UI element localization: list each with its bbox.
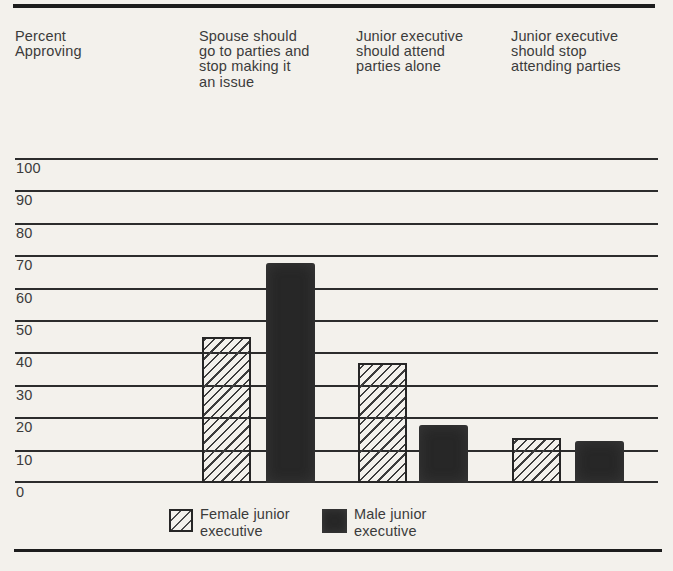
figure-page: Percent Approving Spouse should go to pa… <box>0 0 673 571</box>
y-axis-title: Percent Approving <box>15 29 135 59</box>
bar-male-group3 <box>575 441 624 483</box>
legend-label-female: Female junior executive <box>200 506 290 539</box>
plot-area: 0102030405060708090100 <box>15 159 658 483</box>
category-header-stop-attending: Junior executive should stop attending p… <box>511 29 671 75</box>
category-header-attend-alone: Junior executive should attend parties a… <box>356 29 508 75</box>
y-tick-label-90: 90 <box>16 193 33 208</box>
gridline-50 <box>15 320 658 322</box>
y-tick-label-20: 20 <box>16 420 33 435</box>
bar-female-group3 <box>512 438 561 483</box>
bar-female-group1 <box>202 337 251 483</box>
gridline-10 <box>15 450 658 452</box>
gridline-40 <box>15 352 658 354</box>
y-tick-label-80: 80 <box>16 226 33 241</box>
y-tick-label-0: 0 <box>16 485 24 500</box>
top-rule <box>13 4 655 8</box>
y-tick-label-30: 30 <box>16 388 33 403</box>
legend-swatch-male-solid <box>322 509 347 533</box>
legend-swatch-female-hatched <box>169 509 193 532</box>
category-header-spouse-parties: Spouse should go to parties and stop mak… <box>199 29 359 90</box>
y-tick-label-100: 100 <box>16 161 41 176</box>
y-tick-label-60: 60 <box>16 291 33 306</box>
bottom-rule <box>14 549 662 552</box>
legend-label-male: Male junior executive <box>354 506 427 539</box>
y-tick-label-40: 40 <box>16 355 33 370</box>
bar-female-group2 <box>358 363 407 483</box>
y-tick-label-70: 70 <box>16 258 33 273</box>
bar-male-group2 <box>419 425 468 483</box>
bar-male-group1 <box>266 263 315 483</box>
gridline-100 <box>15 158 658 160</box>
y-tick-label-10: 10 <box>16 453 33 468</box>
gridline-90 <box>15 190 658 192</box>
gridline-70 <box>15 255 658 257</box>
gridline-80 <box>15 223 658 225</box>
gridline-20 <box>15 417 658 419</box>
gridline-0 <box>15 481 658 483</box>
gridline-60 <box>15 288 658 290</box>
y-tick-label-50: 50 <box>16 323 33 338</box>
gridline-30 <box>15 385 658 387</box>
